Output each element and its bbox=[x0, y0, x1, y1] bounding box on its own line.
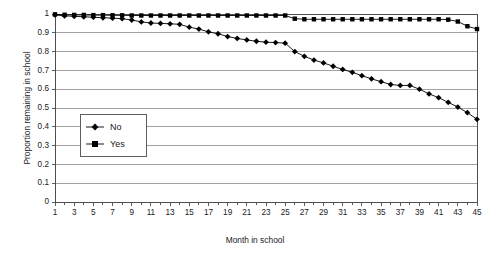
x-tick-label: 25 bbox=[281, 208, 291, 217]
x-tick-label: 19 bbox=[223, 208, 233, 217]
data-point-yes bbox=[321, 17, 325, 21]
legend-border bbox=[80, 114, 146, 156]
x-tick-label: 15 bbox=[185, 208, 195, 217]
y-tick-label: 0.6 bbox=[38, 84, 50, 93]
x-tick-label: 11 bbox=[147, 208, 156, 217]
y-tick-label: 0 bbox=[44, 197, 49, 206]
x-tick-label: 21 bbox=[242, 208, 252, 217]
data-point-yes bbox=[120, 13, 124, 17]
data-point-yes bbox=[206, 13, 210, 17]
y-tick-label: 0.3 bbox=[38, 141, 50, 150]
data-point-yes bbox=[197, 13, 201, 17]
data-point-yes bbox=[331, 17, 335, 21]
data-point-yes bbox=[293, 17, 297, 21]
data-point-yes bbox=[379, 17, 383, 21]
data-point-yes bbox=[273, 13, 277, 17]
data-point-yes bbox=[302, 17, 306, 21]
data-point-yes bbox=[264, 13, 268, 17]
x-tick-label: 35 bbox=[377, 208, 387, 217]
data-point-yes bbox=[465, 24, 469, 28]
x-tick-label: 7 bbox=[110, 208, 115, 217]
chart-canvas: 00.10.20.30.40.50.60.70.80.91 1357911131… bbox=[0, 0, 500, 258]
x-tick-label: 31 bbox=[338, 208, 348, 217]
data-point-yes bbox=[436, 17, 440, 21]
data-point-yes bbox=[168, 13, 172, 17]
y-axis-title: Proportion remaining in school bbox=[22, 51, 32, 164]
x-tick-label: 37 bbox=[396, 208, 406, 217]
x-tick-label: 29 bbox=[319, 208, 329, 217]
x-tick-label: 23 bbox=[261, 208, 271, 217]
x-tick-label: 9 bbox=[129, 208, 134, 217]
x-tick-label: 43 bbox=[453, 208, 463, 217]
x-tick-label: 17 bbox=[204, 208, 214, 217]
data-point-yes bbox=[72, 13, 76, 17]
data-point-yes bbox=[225, 13, 229, 17]
data-point-yes bbox=[456, 19, 460, 23]
data-point-yes bbox=[398, 17, 402, 21]
data-point-yes bbox=[130, 13, 134, 17]
x-tick-label: 45 bbox=[472, 208, 482, 217]
legend-label-no: No bbox=[110, 122, 122, 132]
data-point-yes bbox=[187, 13, 191, 17]
y-tick-label: 0.5 bbox=[38, 103, 50, 112]
data-point-yes bbox=[427, 17, 431, 21]
data-point-yes bbox=[283, 13, 287, 17]
data-point-yes bbox=[369, 17, 373, 21]
chart-background bbox=[0, 0, 500, 258]
legend-marker-square-icon bbox=[92, 141, 98, 147]
data-point-yes bbox=[177, 13, 181, 17]
data-point-yes bbox=[235, 13, 239, 17]
data-point-yes bbox=[149, 13, 153, 17]
data-point-yes bbox=[446, 17, 450, 21]
x-tick-label: 41 bbox=[434, 208, 444, 217]
data-point-yes bbox=[216, 13, 220, 17]
data-point-yes bbox=[62, 13, 66, 17]
data-point-yes bbox=[417, 17, 421, 21]
x-tick-label: 13 bbox=[166, 208, 176, 217]
y-tick-label: 0.2 bbox=[38, 160, 50, 169]
x-tick-label: 33 bbox=[357, 208, 367, 217]
x-tick-label: 1 bbox=[53, 208, 58, 217]
y-tick-label: 0.9 bbox=[38, 28, 50, 37]
data-point-yes bbox=[158, 13, 162, 17]
chart-legend: No Yes bbox=[80, 114, 146, 156]
data-point-yes bbox=[475, 27, 479, 31]
legend-label-yes: Yes bbox=[110, 139, 125, 149]
x-tick-label: 3 bbox=[72, 208, 77, 217]
data-point-yes bbox=[350, 17, 354, 21]
data-point-yes bbox=[245, 13, 249, 17]
data-point-yes bbox=[91, 13, 95, 17]
data-point-yes bbox=[408, 17, 412, 21]
line-chart: 00.10.20.30.40.50.60.70.80.91 1357911131… bbox=[0, 0, 500, 258]
data-point-yes bbox=[53, 12, 57, 16]
x-tick-label: 27 bbox=[300, 208, 310, 217]
data-point-yes bbox=[312, 17, 316, 21]
y-tick-label: 0.7 bbox=[38, 66, 50, 75]
data-point-yes bbox=[101, 13, 105, 17]
y-tick-label: 0.8 bbox=[38, 47, 50, 56]
y-tick-label: 0.4 bbox=[38, 122, 50, 131]
data-point-yes bbox=[110, 13, 114, 17]
y-tick-label: 1 bbox=[44, 9, 49, 18]
data-point-yes bbox=[254, 13, 258, 17]
y-tick-label: 0.1 bbox=[38, 178, 50, 187]
x-axis-title: Month in school bbox=[226, 235, 285, 245]
data-point-yes bbox=[388, 17, 392, 21]
data-point-yes bbox=[82, 13, 86, 17]
data-point-yes bbox=[341, 17, 345, 21]
x-tick-label: 39 bbox=[415, 208, 425, 217]
x-tick-label: 5 bbox=[91, 208, 96, 217]
data-point-yes bbox=[139, 13, 143, 17]
data-point-yes bbox=[360, 17, 364, 21]
